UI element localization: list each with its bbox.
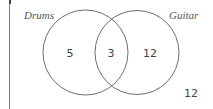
- guitar-label: Guitar: [169, 9, 199, 21]
- guitar-only-value: 12: [143, 47, 157, 60]
- intersection-value: 3: [108, 47, 115, 60]
- venn-diagram: Drums Guitar 5 3 12 12: [0, 0, 213, 109]
- drums-only-value: 5: [67, 47, 74, 60]
- drums-circle: [43, 10, 128, 95]
- drums-label: Drums: [23, 9, 54, 21]
- outside-value: 12: [184, 87, 198, 100]
